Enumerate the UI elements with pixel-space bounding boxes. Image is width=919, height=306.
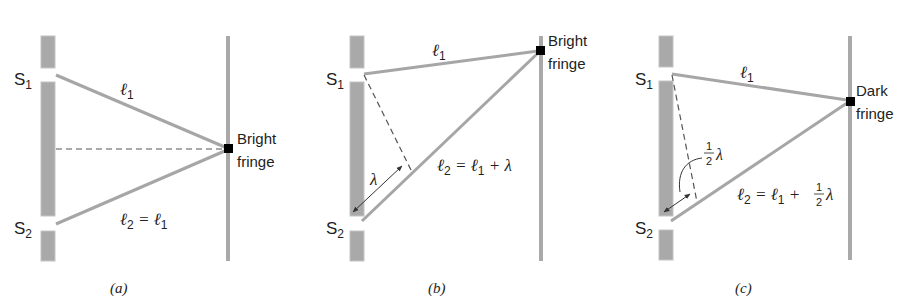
ray-path-1	[56, 75, 227, 148]
panel-caption: (a)	[110, 280, 128, 297]
slit-s1-label: S1	[14, 70, 32, 92]
fringe-label-line1: Dark	[856, 82, 888, 99]
barrier-top-block	[659, 36, 673, 67]
fringe-label-line2: fringe	[237, 153, 275, 170]
barrier-bottom-block	[350, 231, 364, 261]
ray-path-1	[672, 74, 847, 100]
leader-curve	[679, 158, 702, 192]
svg-text:λ: λ	[715, 146, 723, 163]
path-difference-label: λ	[369, 170, 377, 189]
screen	[848, 36, 852, 260]
panel-a: S1 S2 ℓ1 ℓ2 = ℓ1 Bright fringe (a)	[14, 36, 277, 297]
fringe-marker	[224, 144, 233, 153]
fringe-label-line1: Bright	[237, 130, 277, 147]
fringe-marker	[536, 46, 545, 55]
perpendicular-dashed	[364, 75, 412, 172]
barrier-top-block	[350, 36, 364, 68]
slit-s2-label: S2	[326, 219, 344, 241]
svg-text:1: 1	[706, 140, 712, 152]
perpendicular-dashed	[672, 75, 697, 202]
half-lambda-label: 1 2 λ	[704, 140, 723, 167]
slit-s2-label: S2	[14, 219, 32, 241]
path-2-label: ℓ2 = ℓ1	[120, 210, 168, 232]
barrier-bottom-block	[659, 230, 673, 260]
svg-text:λ: λ	[825, 185, 833, 204]
screen	[539, 36, 543, 261]
panel-c: S1 S2 ℓ1 1 2 λ ℓ2 = ℓ1 + 1 2 λ Dark frin…	[635, 36, 894, 297]
double-slit-figure: S1 S2 ℓ1 ℓ2 = ℓ1 Bright fringe (a) S1 S2…	[0, 0, 919, 306]
svg-text:ℓ2 = ℓ1 +: ℓ2 = ℓ1 +	[737, 185, 800, 207]
svg-text:1: 1	[816, 181, 822, 193]
barrier-bottom-block	[41, 231, 55, 261]
barrier-middle-block	[41, 82, 55, 216]
fringe-label-line1: Bright	[548, 32, 588, 49]
fringe-label-line2: fringe	[548, 55, 586, 72]
barrier-top-block	[41, 36, 55, 68]
path-1-label: ℓ1	[740, 63, 754, 85]
barrier-middle-block	[659, 81, 673, 216]
path-2-label: ℓ2 = ℓ1 + 1 2 λ	[737, 181, 833, 208]
path-1-label: ℓ1	[120, 80, 134, 102]
ray-path-2	[362, 53, 538, 221]
panel-caption: (b)	[428, 280, 446, 297]
slit-s2-label: S2	[635, 219, 653, 241]
slit-s1-label: S1	[635, 70, 653, 92]
path-2-label: ℓ2 = ℓ1 + λ	[437, 156, 512, 178]
panel-caption: (c)	[735, 280, 752, 297]
slit-s1-label: S1	[326, 70, 344, 92]
barrier-middle-block	[350, 82, 364, 216]
svg-text:2: 2	[706, 155, 712, 167]
fringe-marker	[846, 97, 855, 106]
ray-path-1	[364, 51, 538, 74]
svg-text:2: 2	[816, 196, 822, 208]
path-1-label: ℓ1	[432, 41, 446, 63]
fringe-label-line2: fringe	[856, 105, 894, 122]
panel-b: S1 S2 ℓ1 ℓ2 = ℓ1 + λ λ Bright fringe (b)	[326, 32, 588, 297]
